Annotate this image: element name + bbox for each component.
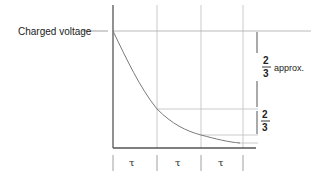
tau-label-1: τ [129, 157, 135, 168]
upper-fraction-suffix: approx. [274, 63, 304, 73]
tau-label-2: τ [175, 157, 181, 168]
discharge-curve [113, 31, 240, 143]
upper-fraction-denominator: 3 [263, 68, 269, 79]
lower-fraction-numerator: 2 [262, 109, 268, 120]
tau-label-3: τ [218, 157, 224, 168]
upper-fraction-numerator: 2 [263, 55, 269, 66]
discharge-diagram: Charged voltage 2 3 approx. 2 3 τ τ τ [0, 0, 333, 189]
charged-voltage-label: Charged voltage [18, 26, 92, 37]
lower-fraction-denominator: 3 [262, 122, 268, 133]
